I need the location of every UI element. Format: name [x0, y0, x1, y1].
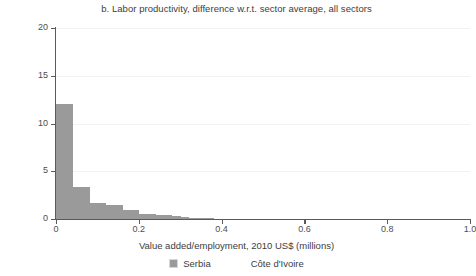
plot-area: [56, 28, 470, 219]
gridline-y-20: [56, 28, 470, 29]
legend-swatch-icon: [169, 259, 178, 268]
chart-title: b. Labor productivity, difference w.r.t.…: [0, 3, 473, 14]
gridline-y-10: [56, 124, 470, 125]
y-tick-label: 20: [20, 22, 48, 32]
y-tick-label: 10: [20, 118, 48, 128]
bar: [205, 218, 214, 219]
y-tick-label: 15: [20, 70, 48, 80]
x-tick-label: 0.2: [133, 224, 146, 234]
x-tick-label: 0.6: [298, 224, 311, 234]
x-axis-label: Value added/employment, 2010 US$ (millio…: [0, 240, 473, 251]
legend-item[interactable]: Serbia: [169, 258, 210, 269]
y-tick-label: 5: [20, 165, 48, 175]
legend-label: Serbia: [183, 258, 210, 269]
x-tick-label: 0: [53, 224, 58, 234]
y-tick-label: 0: [20, 213, 48, 223]
legend-swatch-icon: [237, 259, 246, 268]
y-tick-mark: [51, 171, 55, 172]
y-tick-mark: [51, 124, 55, 125]
gridline-y-5: [56, 171, 470, 172]
legend-label: Côte d'Ivoire: [251, 258, 304, 269]
y-tick-mark: [51, 219, 55, 220]
x-tick-label: 0.8: [381, 224, 394, 234]
x-axis-line: [55, 219, 471, 220]
y-tick-mark: [51, 76, 55, 77]
y-tick-mark: [51, 28, 55, 29]
legend-item[interactable]: Côte d'Ivoire: [237, 258, 304, 269]
x-tick-label: 0.4: [215, 224, 228, 234]
gridline-y-15: [56, 76, 470, 77]
chart-legend: SerbiaCôte d'Ivoire: [0, 258, 473, 269]
x-tick-label: 1.0: [464, 224, 476, 234]
